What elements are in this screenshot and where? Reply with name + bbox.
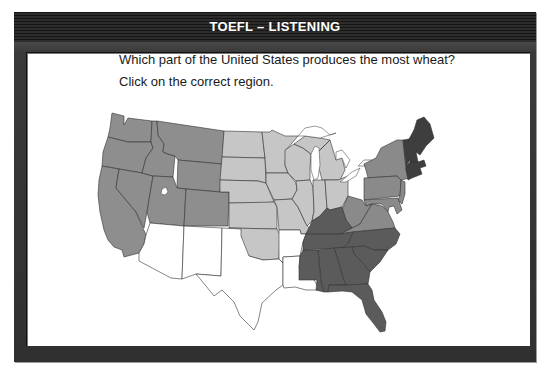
question-instruction: Click on the correct region.	[119, 74, 274, 89]
state-pa	[364, 176, 401, 200]
title-bar: TOEFL – LISTENING	[14, 12, 536, 42]
state-sd	[220, 157, 266, 183]
question-prompt: Which part of the United States produces…	[119, 52, 455, 67]
state-nd	[222, 131, 265, 158]
state-co	[184, 189, 229, 226]
state-nm	[182, 226, 222, 279]
window-title: TOEFL – LISTENING	[209, 19, 340, 34]
state-ks	[229, 202, 277, 229]
state-wy	[177, 160, 222, 192]
